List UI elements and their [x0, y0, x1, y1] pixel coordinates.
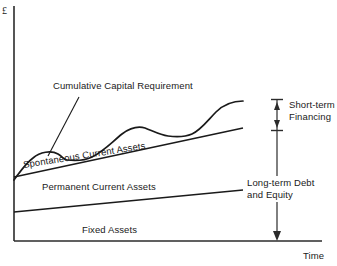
short-term-arrowhead-up: [274, 102, 280, 110]
permanent-current-assets-label: Permanent Current Assets: [42, 181, 156, 192]
cumulative-capital-requirement-curve: [14, 101, 243, 180]
long-term-arrowhead-down: [273, 231, 281, 241]
diagram-canvas: £ Cumulative Capital Requirement Spontan…: [0, 0, 337, 266]
long-term-debt-and-equity-label: Long-term Debt and Equity: [247, 177, 314, 201]
cumulative-capital-requirement-leader-line: [48, 97, 79, 156]
fixed-assets-label: Fixed Assets: [82, 224, 137, 235]
fixed-assets-boundary-line: [14, 190, 243, 212]
x-axis-label: Time: [303, 250, 324, 261]
short-term-financing-bracket: [271, 100, 283, 131]
short-term-arrowhead-down: [274, 120, 280, 128]
short-term-financing-label: Short-term Financing: [289, 99, 335, 123]
capital-requirement-diagram: [0, 0, 337, 266]
y-axis-unit-label: £: [2, 5, 7, 16]
cumulative-capital-requirement-label: Cumulative Capital Requirement: [53, 80, 193, 91]
